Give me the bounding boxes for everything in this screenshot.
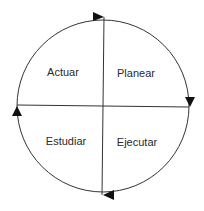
quadrant-label-ejecutar: Ejecutar (117, 136, 158, 148)
quadrant-label-actuar: Actuar (47, 66, 79, 78)
quadrant-label-planear: Planear (117, 67, 155, 79)
arrow-down-icon (185, 97, 195, 107)
arrow-up-icon (12, 106, 22, 116)
quadrant-label-estudiar: Estudiar (46, 135, 87, 147)
pdsa-cycle-diagram: Actuar Planear Ejecutar Estudiar (0, 0, 204, 211)
